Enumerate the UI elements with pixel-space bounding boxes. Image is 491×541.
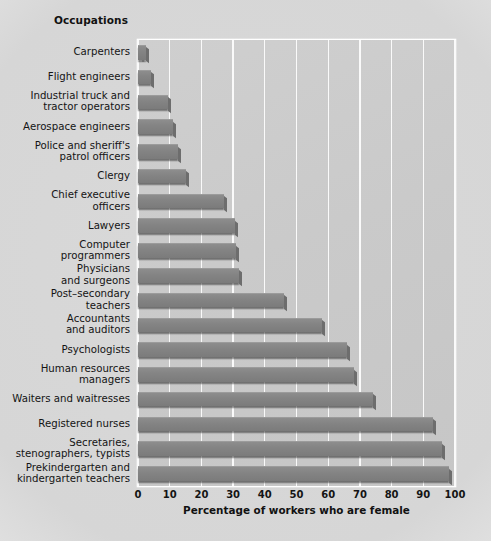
y-axis-label-line: stenographers, typists (0, 448, 130, 459)
bar (138, 119, 173, 134)
x-tick-label-100: 100 (435, 489, 475, 500)
y-axis-label-line: Flight engineers (0, 71, 130, 82)
y-axis-label: Industrial truck andtractor operators (0, 90, 130, 113)
y-axis-label-line: programmers (0, 250, 130, 261)
y-axis-label-line: Post–secondary (0, 288, 130, 299)
bar-row (138, 362, 455, 387)
y-axis-label-line: Carpenters (0, 46, 130, 57)
y-axis-label-line: teachers (0, 300, 130, 311)
y-axis-label-line: Aerospace engineers (0, 121, 130, 132)
bar (138, 342, 347, 357)
bar-row (138, 436, 455, 461)
y-axis-label: Aerospace engineers (0, 121, 130, 132)
y-axis-label: Psychologists (0, 344, 130, 355)
y-axis-label: Registered nurses (0, 418, 130, 429)
y-axis-label: Accountantsand auditors (0, 313, 130, 336)
y-axis-label-line: patrol officers (0, 151, 130, 162)
y-axis-label-line: tractor operators (0, 101, 130, 112)
bar (138, 466, 449, 481)
bar-row (138, 461, 455, 486)
bar-row (138, 288, 455, 313)
y-axis-label: Clergy (0, 170, 130, 181)
y-axis-label-line: Computer (0, 239, 130, 250)
bar (138, 293, 284, 308)
y-axis-label-line: Prekindergarten and (0, 462, 130, 473)
occupations-column-header: Occupations (0, 14, 128, 26)
y-axis-label: Flight engineers (0, 71, 130, 82)
bar (138, 218, 235, 233)
bar (138, 441, 442, 456)
bar-row (138, 387, 455, 412)
y-axis-label-line: Chief executive (0, 189, 130, 200)
y-axis-label-line: kindergarten teachers (0, 473, 130, 484)
y-axis-label-line: Police and sheriff's (0, 140, 130, 151)
bar-row (138, 40, 455, 65)
bar-row (138, 263, 455, 288)
y-axis-label: Chief executiveofficers (0, 189, 130, 212)
bar-row (138, 90, 455, 115)
bar-row (138, 238, 455, 263)
y-axis-label: Human resourcesmanagers (0, 363, 130, 386)
bar (138, 194, 224, 209)
bar (138, 169, 186, 184)
y-axis-label-line: Human resources (0, 363, 130, 374)
y-axis-label-line: Psychologists (0, 344, 130, 355)
y-axis-label: Waiters and waitresses (0, 393, 130, 404)
bar (138, 95, 168, 110)
y-axis-label: Physiciansand surgeons (0, 263, 130, 286)
y-axis-label-line: Industrial truck and (0, 90, 130, 101)
bar-row (138, 164, 455, 189)
y-axis-label: Prekindergarten andkindergarten teachers (0, 462, 130, 485)
y-axis-label-line: and auditors (0, 324, 130, 335)
bar (138, 392, 373, 407)
bar (138, 367, 354, 382)
y-axis-label-line: Lawyers (0, 220, 130, 231)
y-axis-label: Secretaries,stenographers, typists (0, 437, 130, 460)
bar (138, 45, 146, 60)
bar (138, 268, 239, 283)
bar-row (138, 313, 455, 338)
bar-row (138, 213, 455, 238)
y-axis-label-line: Clergy (0, 170, 130, 181)
bar-row (138, 337, 455, 362)
y-axis-label-line: Registered nurses (0, 418, 130, 429)
y-axis-label: Carpenters (0, 46, 130, 57)
y-axis-label-line: officers (0, 201, 130, 212)
y-axis-label: Computerprogrammers (0, 239, 130, 262)
y-axis-label-line: Accountants (0, 313, 130, 324)
y-axis-label: Post–secondaryteachers (0, 288, 130, 311)
bar-chart-figure: Occupations CarpentersFlight engineersIn… (0, 0, 491, 541)
bar-row (138, 139, 455, 164)
bar (138, 243, 236, 258)
bar (138, 70, 151, 85)
x-axis-title: Percentage of workers who are female (138, 504, 455, 516)
y-axis-label: Police and sheriff'spatrol officers (0, 140, 130, 163)
bar (138, 144, 178, 159)
y-axis-label: Lawyers (0, 220, 130, 231)
bar-row (138, 65, 455, 90)
bar-row (138, 412, 455, 437)
y-axis-label-line: and surgeons (0, 275, 130, 286)
bar (138, 318, 322, 333)
y-axis-label-line: managers (0, 374, 130, 385)
bar-row (138, 114, 455, 139)
y-axis-label-line: Secretaries, (0, 437, 130, 448)
y-axis-label-line: Waiters and waitresses (0, 393, 130, 404)
bar (138, 417, 433, 432)
bar-row (138, 189, 455, 214)
y-axis-label-line: Physicians (0, 263, 130, 274)
